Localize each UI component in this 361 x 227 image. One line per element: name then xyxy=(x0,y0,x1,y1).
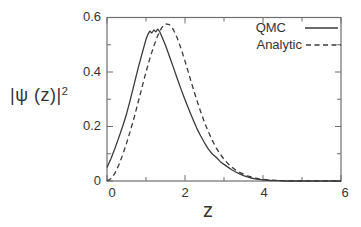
x-tick-label: 2 xyxy=(174,186,196,200)
y-tick-label: 0 xyxy=(73,174,101,188)
y-tick-label: 0.2 xyxy=(73,119,101,133)
legend-label-qmc: QMC xyxy=(206,21,286,35)
y-axis-label-exponent: 2 xyxy=(62,85,69,97)
y-tick-label: 0.6 xyxy=(73,10,101,24)
x-axis-label: z xyxy=(196,199,220,221)
legend-label-analytic: Analytic xyxy=(222,38,302,52)
x-tick-label: 0 xyxy=(101,186,123,200)
wavefunction-density-chart: |ψ (z)|2 0.6 0.4 0.2 0 0 2 4 6 z QMC Ana… xyxy=(0,0,361,227)
y-axis-label-base: |ψ (z)| xyxy=(10,85,62,105)
x-tick-label: 4 xyxy=(253,186,275,200)
y-tick-label: 0.4 xyxy=(73,65,101,79)
x-tick-label: 6 xyxy=(334,186,356,200)
y-axis-label: |ψ (z)|2 xyxy=(10,84,68,106)
